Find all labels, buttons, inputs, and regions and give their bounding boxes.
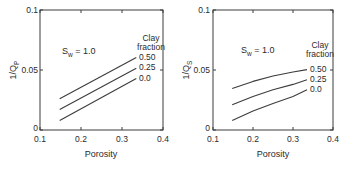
x-axis-label: Porosity <box>238 149 308 160</box>
x-tick-label: 0.1 <box>200 134 226 144</box>
series-line-clay-0.50 <box>232 70 307 89</box>
series-line-clay-0.25 <box>60 68 137 109</box>
series-label-025: 0.25 <box>310 75 327 84</box>
series-line-clay-0.25 <box>232 80 307 105</box>
legend-title: Clayfraction <box>300 41 340 59</box>
y-tick-label: 0.1 <box>12 5 38 15</box>
x-tick-label: 0.3 <box>280 134 306 144</box>
plot-canvas <box>0 0 351 172</box>
x-tick-label: 0.3 <box>109 134 135 144</box>
two-panel-attenuation-figure: 0.1 0.05 0 0.1 0.2 0.3 0.4 Porosity 1/QP… <box>0 0 351 172</box>
y-tick-label: 0.1 <box>184 5 210 15</box>
sw-annotation-rest: = 1.0 <box>73 46 96 56</box>
sw-annotation: Sw = 1.0 <box>62 46 96 57</box>
sw-annotation-rest: = 1.0 <box>252 45 275 55</box>
x-tick-label: 0.4 <box>320 134 346 144</box>
legend-title: Clayfraction <box>131 34 171 52</box>
x-axis-label: Porosity <box>66 149 136 160</box>
series-line-clay-0.50 <box>60 57 137 98</box>
y-axis-label-base: 1/Q <box>8 65 18 80</box>
y-axis-label-sub: S <box>186 61 193 65</box>
series-line-clay-0.0 <box>60 79 137 121</box>
y-axis-label: 1/QS <box>180 48 192 92</box>
legend-title-line: fraction <box>131 43 171 52</box>
legend-title-line: fraction <box>300 50 340 59</box>
y-tick-label: 0 <box>12 123 38 133</box>
series-line-clay-0.0 <box>232 90 307 121</box>
x-tick-label: 0.4 <box>150 134 176 144</box>
series-label-050: 0.50 <box>139 53 156 62</box>
x-tick-label: 0.2 <box>68 134 94 144</box>
y-tick-label: 0 <box>184 123 210 133</box>
series-label-00: 0.0 <box>310 85 322 94</box>
x-tick-label: 0.1 <box>27 134 53 144</box>
y-axis-label-sub: P <box>13 61 20 65</box>
y-axis-label: 1/QP <box>7 48 19 92</box>
x-tick-label: 0.2 <box>240 134 266 144</box>
series-label-025: 0.25 <box>139 63 156 72</box>
y-axis-label-base: 1/Q <box>181 65 191 80</box>
sw-annotation: Sw = 1.0 <box>241 45 275 56</box>
series-label-00: 0.0 <box>139 74 151 83</box>
series-label-050: 0.50 <box>310 65 327 74</box>
